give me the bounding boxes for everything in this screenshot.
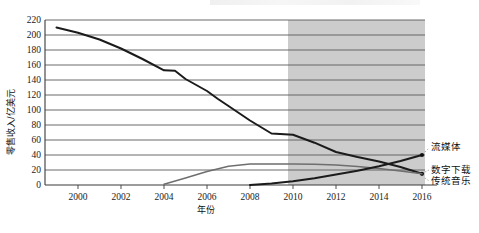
ytick-label: 20: [32, 165, 42, 175]
xtick-label: 2008: [241, 192, 260, 202]
xtick-label: 2016: [413, 192, 432, 202]
ytick-label: 200: [27, 30, 42, 40]
xtick-label: 2006: [198, 192, 217, 202]
ytick-label: 60: [32, 135, 42, 145]
legend-label-traditional: 传统音乐: [431, 175, 471, 186]
xtick-label: 2014: [370, 192, 389, 202]
x-axis-title: 年份: [197, 204, 215, 215]
xtick-label: 2000: [69, 192, 88, 202]
ytick-label: 120: [27, 90, 42, 100]
xtick-label: 2010: [284, 192, 303, 202]
series-labels-group: 流媒体 数字下载 传统音乐: [425, 141, 471, 186]
streaming-endpoint-marker: [420, 153, 424, 157]
chart-figure: 220 200 180 160 140 120 100 80 60 40 20 …: [0, 0, 479, 233]
ytick-label: 160: [27, 60, 42, 70]
xtick-label: 2002: [112, 192, 131, 202]
line-chart-canvas: 220 200 180 160 140 120 100 80 60 40 20 …: [0, 0, 479, 233]
ytick-label: 80: [32, 120, 42, 130]
legend-label-digital: 数字下载: [431, 164, 471, 175]
y-axis-title: 零售收入/亿美元: [5, 89, 16, 155]
ytick-label: 180: [27, 45, 42, 55]
ytick-label: 100: [27, 105, 42, 115]
xtick-label: 2004: [155, 192, 174, 202]
xtick-label: 2012: [327, 192, 346, 202]
y-axis-ticks: 220 200 180 160 140 120 100 80 60 40 20 …: [27, 15, 42, 190]
x-axis-ticks: 2000 2002 2004 2006 2008 2010 2012 2014 …: [69, 185, 432, 202]
legend-label-streaming: 流媒体: [431, 141, 461, 152]
ytick-label: 220: [27, 15, 42, 25]
ytick-label: 0: [36, 180, 41, 190]
ytick-label: 40: [32, 150, 42, 160]
ytick-label: 140: [27, 75, 42, 85]
